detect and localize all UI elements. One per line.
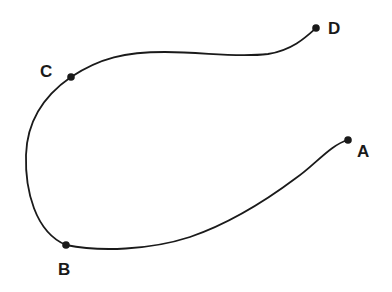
point-d-dot (312, 24, 320, 32)
point-b-label: B (58, 260, 70, 279)
point-a-dot (344, 136, 352, 144)
curve-path (26, 28, 348, 249)
curve-diagram: A B C D (0, 0, 392, 292)
point-d-label: D (328, 19, 340, 38)
point-b-dot (62, 241, 70, 249)
point-a-label: A (357, 142, 369, 161)
point-c-dot (67, 73, 75, 81)
point-c-label: C (40, 62, 52, 81)
